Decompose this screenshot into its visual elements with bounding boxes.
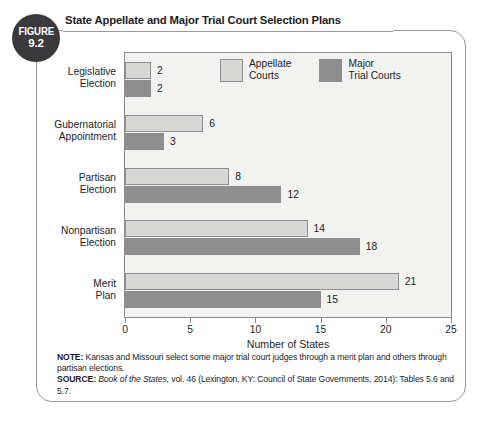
bar-appellate-courts xyxy=(125,62,151,79)
bar-group: 2115 xyxy=(125,273,451,308)
bar-value-label: 2 xyxy=(157,81,163,96)
x-axis-tick-label: 10 xyxy=(250,324,261,335)
x-axis-tick-label: 5 xyxy=(187,324,193,335)
x-axis-tick-label: 0 xyxy=(122,324,128,335)
bar-value-label: 14 xyxy=(314,221,325,236)
note-text: Kansas and Missouri select some major tr… xyxy=(57,352,447,373)
bar-row: 12 xyxy=(125,186,451,203)
x-axis-tick xyxy=(190,318,191,323)
legend-label-appellate-courts: Appellate Courts xyxy=(249,58,291,81)
bar-major-trial-courts xyxy=(125,291,321,308)
bar-value-label: 6 xyxy=(209,116,215,131)
bar-group: 63 xyxy=(125,115,451,150)
bar-appellate-courts xyxy=(125,168,229,185)
legend-item-appellate-courts: Appellate Courts xyxy=(220,58,291,82)
bar-value-label: 12 xyxy=(287,187,298,202)
legend-swatch-major-trial-courts xyxy=(319,59,342,82)
bar-row: 3 xyxy=(125,133,451,150)
bar-group: 812 xyxy=(125,168,451,203)
bar-row: 2 xyxy=(125,80,451,97)
bar-row: 15 xyxy=(125,291,451,308)
y-axis-label: Partisan Election xyxy=(0,172,116,196)
source-title: Book of the States, xyxy=(96,374,169,384)
legend-item-major-trial-courts: Major Trial Courts xyxy=(319,58,400,82)
legend-swatch-appellate-courts xyxy=(220,59,243,82)
chart-plot-wrapper: Appellate Courts Major Trial Courts Legi… xyxy=(124,52,452,318)
bar-major-trial-courts xyxy=(125,133,164,150)
note-label: NOTE: xyxy=(57,352,83,362)
x-axis-tick xyxy=(451,318,452,323)
bar-value-label: 8 xyxy=(235,169,241,184)
bar-major-trial-courts xyxy=(125,186,281,203)
bar-major-trial-courts xyxy=(125,238,360,255)
bar-row: 21 xyxy=(125,273,451,290)
bar-appellate-courts xyxy=(125,273,399,290)
chart-legend: Appellate Courts Major Trial Courts xyxy=(220,58,401,82)
bar-value-label: 18 xyxy=(366,239,377,254)
chart-bars-layer: 226381214182115 xyxy=(125,53,451,317)
figure-badge-number: 9.2 xyxy=(28,37,43,50)
bar-appellate-courts xyxy=(125,220,308,237)
bar-value-label: 21 xyxy=(405,274,416,289)
bar-row: 14 xyxy=(125,220,451,237)
x-axis-tick xyxy=(386,318,387,323)
title-divider xyxy=(63,30,393,33)
figure-badge-word: FIGURE xyxy=(18,26,53,37)
source-label: SOURCE: xyxy=(57,374,96,384)
x-axis-tick xyxy=(255,318,256,323)
y-axis-label: Merit Plan xyxy=(0,278,116,302)
y-axis-label: Gubernatorial Appointment xyxy=(0,119,116,143)
bar-appellate-courts xyxy=(125,115,203,132)
x-axis-title: Number of States xyxy=(124,338,452,350)
bar-row: 6 xyxy=(125,115,451,132)
x-axis-tick xyxy=(125,318,126,323)
figure-note: NOTE: Kansas and Missouri select some ma… xyxy=(57,352,457,374)
figure-footnotes: NOTE: Kansas and Missouri select some ma… xyxy=(57,352,457,397)
bar-group: 1418 xyxy=(125,220,451,255)
bar-value-label: 2 xyxy=(157,63,163,78)
figure-source: SOURCE: Book of the States, vol. 46 (Lex… xyxy=(57,374,457,396)
bar-row: 18 xyxy=(125,238,451,255)
bar-value-label: 15 xyxy=(327,292,338,307)
x-axis-tick-label: 20 xyxy=(380,324,391,335)
bar-value-label: 3 xyxy=(170,134,176,149)
x-axis-tick xyxy=(321,318,322,323)
bar-major-trial-courts xyxy=(125,80,151,97)
figure-title: State Appellate and Major Trial Court Se… xyxy=(65,14,341,26)
figure-number-badge: FIGURE 9.2 xyxy=(12,14,60,62)
legend-label-major-trial-courts: Major Trial Courts xyxy=(348,58,400,81)
y-axis-label: Nonpartisan Election xyxy=(0,225,116,249)
bar-row: 8 xyxy=(125,168,451,185)
x-axis-tick-label: 15 xyxy=(315,324,326,335)
x-axis-tick-label: 25 xyxy=(445,324,456,335)
y-axis-label: Legislative Election xyxy=(0,66,116,90)
